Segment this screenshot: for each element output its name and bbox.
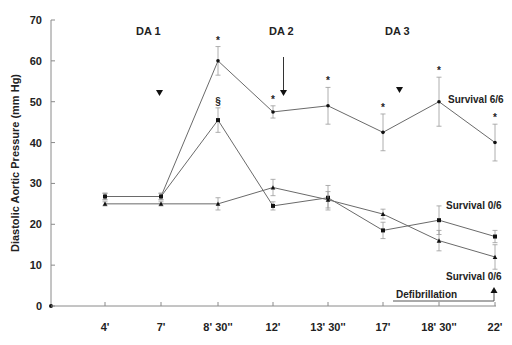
- y-tick-label: 10: [30, 259, 42, 271]
- y-tick-label: 30: [30, 177, 42, 189]
- data-point: [216, 118, 220, 122]
- data-point: [326, 104, 330, 108]
- significance-marker: *: [271, 94, 275, 105]
- data-point: [437, 218, 441, 222]
- data-point: [271, 204, 275, 208]
- x-tick-label: 13' 30'': [310, 321, 346, 333]
- series-1: §: [103, 96, 498, 243]
- data-point: [437, 100, 441, 104]
- y-tick-label: 0: [36, 300, 42, 312]
- data-point: [437, 238, 442, 242]
- x-tick-label: 18' 30'': [421, 321, 457, 333]
- x-tick-label: 12': [266, 321, 281, 333]
- da1-label: DA 1: [136, 25, 161, 37]
- data-point: [159, 195, 163, 199]
- x-tick-label: 7': [157, 321, 166, 333]
- data-point: [271, 110, 275, 114]
- x-tick-label: 8' 30'': [203, 321, 233, 333]
- x-tick-label: 22': [488, 321, 503, 333]
- da2-marker-icon: [280, 90, 287, 96]
- y-axis-title: Diastolic Aortic Pressure (mm Hg): [9, 74, 21, 252]
- series-line: [105, 61, 495, 197]
- data-point: [381, 228, 385, 232]
- defibrillation-label: Defibrillation: [396, 289, 457, 300]
- data-point: [493, 141, 497, 145]
- significance-marker: *: [381, 102, 385, 113]
- y-tick-label: 60: [30, 55, 42, 67]
- significance-marker: *: [326, 75, 330, 86]
- data-point: [381, 131, 385, 135]
- survival-0-6-upper-label: Survival 0/6: [446, 200, 502, 211]
- series-group: ******§: [103, 35, 498, 270]
- data-point: [103, 195, 107, 199]
- defibrillation-marker-icon: [491, 287, 498, 293]
- survival-6-6-label: Survival 6/6: [448, 94, 504, 105]
- x-tick-label: 4': [101, 321, 110, 333]
- y-tick-label: 50: [30, 96, 42, 108]
- significance-marker: *: [216, 35, 220, 46]
- y-tick-label: 20: [30, 218, 42, 230]
- series-line: [105, 120, 495, 236]
- da3-label: DA 3: [385, 25, 410, 37]
- significance-marker: §: [215, 96, 221, 107]
- series-0: ******: [103, 35, 498, 200]
- series-line: [105, 188, 495, 257]
- annotations: DA 1 DA 2 DA 3 Survival 6/6 Survival 0/6…: [136, 25, 504, 301]
- axes: 0102030405060704'7'8' 30''12'13' 30''17'…: [9, 14, 503, 333]
- diastolic-pressure-chart: 0102030405060704'7'8' 30''12'13' 30''17'…: [0, 0, 512, 345]
- survival-0-6-lower-label: Survival 0/6: [446, 271, 502, 282]
- y-tick-label: 40: [30, 137, 42, 149]
- y-tick-label: 70: [30, 14, 42, 26]
- series-2: [103, 179, 498, 269]
- da2-label: DA 2: [269, 25, 294, 37]
- data-point: [493, 235, 497, 239]
- da3-marker-icon: [396, 87, 403, 93]
- x-tick-label: 17': [376, 321, 391, 333]
- da1-marker-icon: [156, 90, 163, 96]
- significance-marker: *: [493, 112, 497, 123]
- significance-marker: *: [437, 65, 441, 76]
- data-point: [216, 59, 220, 63]
